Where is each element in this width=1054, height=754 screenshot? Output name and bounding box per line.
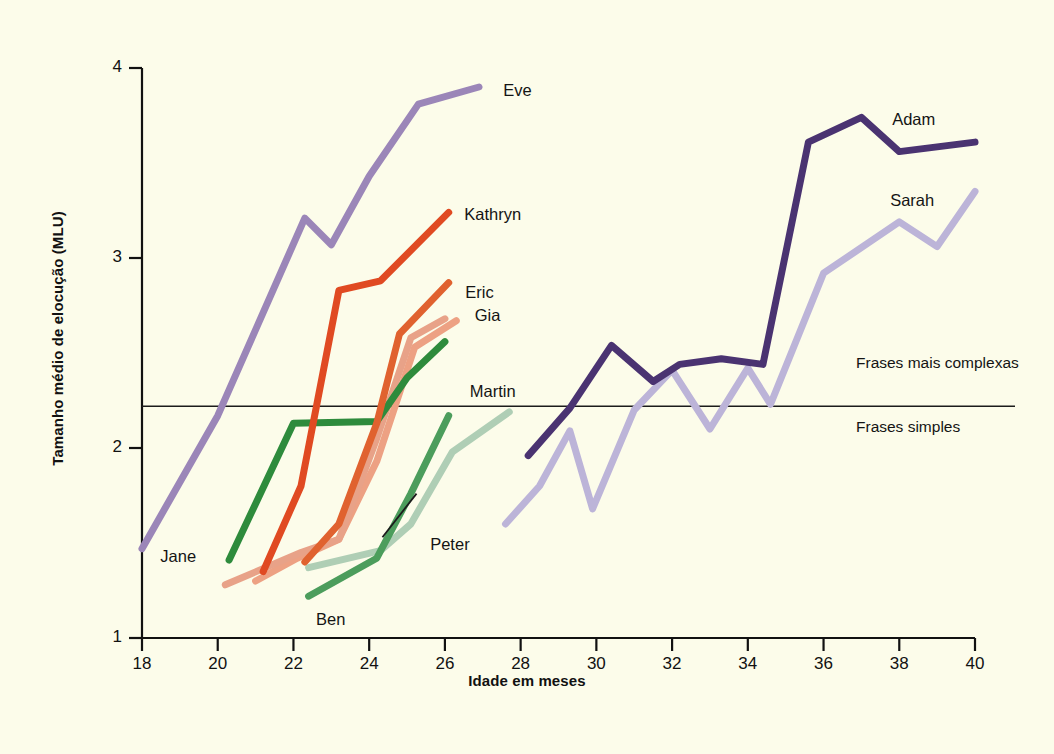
zone-label-complex: Frases mais complexas bbox=[856, 354, 971, 373]
y-axis-title: Tamanho médio de elocução (MLU) bbox=[49, 189, 66, 489]
x-tick-label: 18 bbox=[117, 654, 167, 674]
series-label-adam: Adam bbox=[892, 110, 935, 129]
series-line-adam bbox=[528, 117, 975, 455]
y-tick-label: 4 bbox=[80, 57, 122, 77]
x-tick-label: 40 bbox=[950, 654, 1000, 674]
x-tick-label: 22 bbox=[268, 654, 318, 674]
figure-root: Tamanho médio de elocução (MLU) Idade em… bbox=[0, 0, 1054, 754]
x-tick-label: 34 bbox=[723, 654, 773, 674]
x-tick-label: 38 bbox=[874, 654, 924, 674]
series-label-gia: Gia bbox=[475, 306, 501, 325]
series-label-jane: Jane bbox=[160, 547, 196, 566]
x-tick-label: 36 bbox=[799, 654, 849, 674]
series-line-kathryn bbox=[263, 212, 449, 571]
zone-label-simple: Frases simples bbox=[856, 418, 951, 437]
y-tick-label: 3 bbox=[80, 247, 122, 267]
zone-label-simple-text: Frases simples bbox=[856, 418, 951, 437]
x-tick-label: 20 bbox=[193, 654, 243, 674]
series-label-peter: Peter bbox=[430, 535, 469, 554]
series-label-kathryn: Kathryn bbox=[464, 205, 521, 224]
series-label-ben: Ben bbox=[316, 610, 345, 629]
series-label-sarah: Sarah bbox=[890, 191, 934, 210]
x-tick-label: 24 bbox=[344, 654, 394, 674]
x-axis-title: Idade em meses bbox=[0, 672, 1054, 689]
y-tick-label: 2 bbox=[80, 437, 122, 457]
x-tick-label: 30 bbox=[571, 654, 621, 674]
series-label-eric: Eric bbox=[465, 283, 493, 302]
y-tick-label: 1 bbox=[80, 627, 122, 647]
x-tick-label: 26 bbox=[420, 654, 470, 674]
series-label-eve: Eve bbox=[503, 81, 531, 100]
series-line-eve bbox=[142, 87, 479, 549]
zone-label-complex-text: Frases mais complexas bbox=[856, 354, 971, 373]
x-tick-label: 32 bbox=[647, 654, 697, 674]
series-label-martin: Martin bbox=[470, 382, 516, 401]
axis-spine bbox=[142, 68, 975, 638]
x-tick-label: 28 bbox=[496, 654, 546, 674]
